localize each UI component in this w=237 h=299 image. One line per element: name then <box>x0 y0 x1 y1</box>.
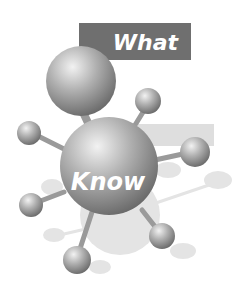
know-hub: Know <box>60 117 158 215</box>
node-sphere <box>19 193 43 217</box>
ghost-link <box>150 184 212 205</box>
network-graphic: What Know <box>0 0 237 299</box>
ghost-node <box>170 243 196 259</box>
node-sphere <box>135 88 161 114</box>
hub-label: Know <box>71 168 146 196</box>
ghost-node <box>155 162 181 178</box>
node-sphere <box>17 121 41 145</box>
node-sphere <box>149 223 175 249</box>
ghost-node <box>89 260 111 274</box>
banner-label: What <box>113 30 180 55</box>
node-sphere <box>180 137 210 167</box>
knowledge-network-illustration: What Know <box>0 0 237 299</box>
ghost-node <box>43 228 65 242</box>
node-sphere <box>63 246 91 274</box>
node-sphere-top-left <box>46 46 116 116</box>
